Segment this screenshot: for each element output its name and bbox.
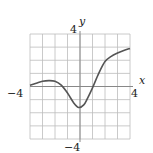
x-max-tick-label: 4	[131, 87, 138, 100]
x-min-tick-label: −4	[7, 87, 23, 100]
y-min-tick-label: −4	[64, 141, 80, 153]
chart: y 4 x 4 −4 −4	[0, 0, 153, 153]
y-max-tick-label: 4	[70, 23, 77, 36]
y-axis-label: y	[78, 15, 86, 28]
x-axis-label: x	[139, 74, 146, 87]
